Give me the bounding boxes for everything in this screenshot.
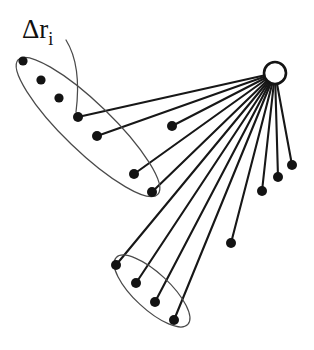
spoke-to-u7 — [152, 73, 275, 192]
node-dot-u5 — [92, 131, 102, 141]
node-dot-l4 — [169, 315, 179, 325]
figure-root: Δri — [0, 0, 314, 350]
node-dot-u1 — [18, 56, 27, 65]
node-dot-l1 — [111, 260, 121, 270]
node-dot-m2 — [226, 238, 236, 248]
delta-r-label: Δri — [22, 14, 53, 49]
node-dot-u3 — [54, 93, 63, 102]
node-dot-m1 — [167, 121, 177, 131]
node-dot-u6 — [129, 169, 139, 179]
node-dot-l2 — [131, 278, 141, 288]
node-dot-r2 — [273, 172, 283, 182]
spoke-to-l3 — [155, 73, 275, 302]
diagram-canvas: Δri — [0, 0, 314, 350]
spoke-to-m1 — [172, 73, 275, 126]
upper-group-ellipse — [2, 42, 175, 211]
node-dot-l3 — [150, 297, 160, 307]
label-leader-curve — [66, 40, 78, 112]
hub-node — [264, 62, 286, 84]
spokes-layer — [78, 73, 292, 320]
node-dot-u2 — [36, 75, 45, 84]
group-ellipses-layer — [2, 42, 201, 337]
delta-r-label-subscript: i — [48, 29, 53, 49]
node-dot-r1 — [257, 186, 267, 196]
node-dot-u4 — [73, 112, 83, 122]
delta-r-label-base: Δr — [22, 14, 48, 44]
node-dot-u7 — [147, 187, 157, 197]
node-dot-r3 — [287, 160, 297, 170]
